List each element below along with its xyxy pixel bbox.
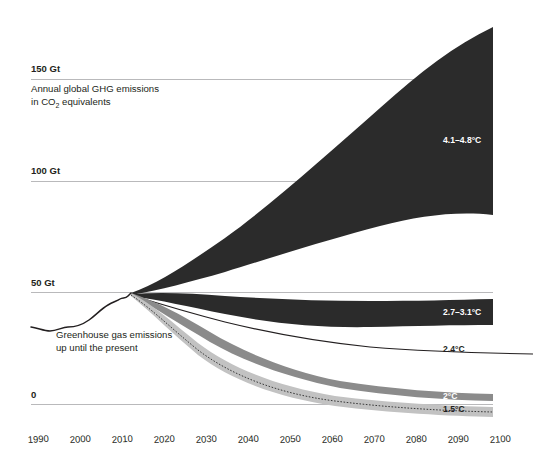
y-tick-100: 100 Gt (31, 165, 61, 176)
chart-title-line2-pre: in CO (31, 96, 56, 107)
x-tick-2010: 2010 (111, 433, 133, 445)
chart-title-line1: Annual global GHG emissions (31, 83, 159, 94)
x-tick-2040: 2040 (237, 433, 259, 445)
historical-annotation-line1: Greenhouse gas emissions (56, 329, 172, 340)
label-2-degree: 2°C (443, 391, 457, 401)
label-1-5-degree: 1.5°C (443, 404, 465, 414)
label-2-4-degree: 2.4°C (443, 344, 465, 354)
historical-annotation-line2: up until the present (56, 342, 138, 353)
x-tick-1990: 1990 (27, 433, 49, 445)
y-tick-50: 50 Gt (31, 277, 56, 288)
y-tick-0: 0 (31, 389, 36, 400)
ghg-emissions-chart: 150 Gt 100 Gt 50 Gt 0 Annual global GHG … (0, 0, 533, 468)
chart-title-line2-post: equivalents (59, 96, 110, 107)
x-tick-2030: 2030 (195, 433, 217, 445)
label-4-1-4-8-degree: 4.1–4.8°C (443, 135, 481, 145)
label-2-7-3-1-degree: 2.7–3.1°C (443, 307, 481, 317)
x-tick-2050: 2050 (279, 433, 301, 445)
x-tick-2000: 2000 (69, 433, 91, 445)
x-tick-2020: 2020 (153, 433, 175, 445)
x-tick-2100: 2100 (489, 433, 511, 445)
x-tick-2080: 2080 (405, 433, 427, 445)
x-tick-2070: 2070 (363, 433, 385, 445)
x-tick-2090: 2090 (447, 433, 469, 445)
y-tick-150: 150 Gt (31, 63, 61, 74)
x-tick-2060: 2060 (321, 433, 343, 445)
chart-svg: 150 Gt 100 Gt 50 Gt 0 Annual global GHG … (0, 0, 533, 468)
